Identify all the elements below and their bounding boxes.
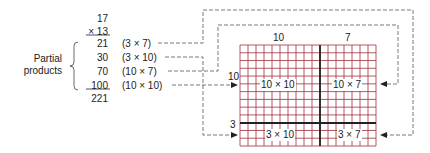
region-label: 3 × 10 — [265, 129, 295, 141]
partial-expr: (10 × 7) — [122, 66, 157, 78]
multiplier: × 13 — [84, 26, 108, 38]
partial-expr: (3 × 7) — [122, 38, 151, 50]
partial-product: 70 — [86, 66, 108, 78]
side-label: 3 — [230, 119, 236, 131]
region-label: 10 × 7 — [332, 79, 362, 91]
total: 221 — [86, 93, 108, 105]
top-label: 10 — [273, 32, 284, 44]
region-label: 10 × 10 — [260, 79, 296, 91]
partial-product: 100 — [86, 80, 108, 92]
partial-product: 30 — [86, 52, 108, 64]
partial-label: products — [10, 65, 62, 77]
diagram-lines — [0, 0, 430, 153]
region-label: 3 × 7 — [337, 129, 362, 141]
top-label: 7 — [345, 32, 351, 44]
partial-label: Partial — [10, 53, 62, 65]
side-label: 10 — [228, 71, 239, 83]
partial-product: 21 — [86, 38, 108, 50]
partial-expr: (3 × 10) — [122, 52, 157, 64]
multiplicand: 17 — [86, 13, 108, 25]
partial-expr: (10 × 10) — [122, 80, 162, 92]
